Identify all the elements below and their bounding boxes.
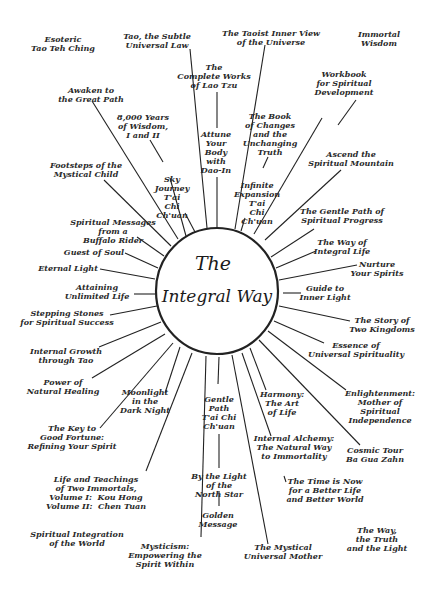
label-mystical-mother: The Mystical Universal Mother xyxy=(244,543,322,561)
label-by-light: By the Light of the North Star xyxy=(191,472,246,499)
integral-way-diagram: The Integral Way Esoteric Tao Teh ChingT… xyxy=(0,0,432,594)
label-internal-growth: Internal Growth through Tao xyxy=(30,347,102,365)
label-workbook: Workbook for Spiritual Development xyxy=(315,70,374,97)
label-sky-journey: Sky Journey T'ai Chi Ch'uan xyxy=(155,175,190,220)
label-esoteric: Esoteric Tao Teh Ching xyxy=(31,35,95,53)
label-infinite-expansion: Infinite Expansion T'ai Chi Ch'uan xyxy=(234,181,280,226)
label-quest-soul: Guest of Soul xyxy=(64,248,124,257)
label-stepping-stones: Stepping Stones for Spiritual Success xyxy=(20,309,113,327)
spoke-eternal-light xyxy=(100,269,155,279)
label-gentle-path-tai-chi: Gentle Path T'ai Chi Ch'uan xyxy=(202,395,237,431)
label-guide-inner: Guide to Inner Light xyxy=(299,284,350,302)
label-ascend: Ascend the Spiritual Mountain xyxy=(308,150,394,168)
label-time-is-now: The Time is Now for a Better Life and Be… xyxy=(286,477,363,504)
label-mysticism: Mysticism: Empowering the Spirit Within xyxy=(128,542,202,569)
label-8000-years: 8,000 Years of Wisdom, I and II xyxy=(117,113,169,140)
label-golden-message: Golden Message xyxy=(199,511,238,529)
label-tao-subtle: Tao, the Subtle Universal Law xyxy=(123,32,191,50)
label-book-changes: The Book of Changes and the Unchanging T… xyxy=(243,112,298,157)
spoke-way-integral xyxy=(276,251,316,268)
label-moonlight: Moonlight in the Dark Night xyxy=(120,388,170,415)
hub-title-the: The xyxy=(195,252,231,274)
label-key-fortune: The Key to Good Fortune: Refining Your S… xyxy=(27,424,116,451)
label-nurture: Nurture Your Spirits xyxy=(350,260,403,278)
label-taoist-inner-view: The Taoist Inner View of the Universe xyxy=(222,29,320,47)
label-enlightenment: Enlightenment: Mother of Spiritual Indep… xyxy=(345,389,415,425)
hub-title-integral-way: Integral Way xyxy=(162,286,272,306)
label-footsteps: Footsteps of the Mystical Child xyxy=(50,161,122,179)
spoke-story-kingdoms xyxy=(279,306,350,321)
spoke-key-fortune xyxy=(100,343,173,428)
label-harmony: Harmony: The Art of Life xyxy=(260,390,304,417)
spoke-8000-years xyxy=(150,140,163,162)
label-gentle-path-progress: The Gentle Path of Spiritual Progress xyxy=(300,207,384,225)
spoke-natural-healing xyxy=(92,334,165,378)
label-essence: Essence of Universal Spirituality xyxy=(308,341,404,359)
label-the-way-truth: The Way, the Truth and the Light xyxy=(347,526,408,553)
label-way-integral: The Way of Integral Life xyxy=(314,238,370,256)
spoke-book-changes xyxy=(263,157,268,168)
label-buffalo-rider: Spiritual Messages from a Buffalo Rider xyxy=(70,218,156,245)
label-cosmic-tour: Cosmic Tour Ba Gua Zahn xyxy=(346,446,404,464)
label-story-kingdoms: The Story of Two Kingdoms xyxy=(349,316,414,334)
label-eternal-light: Eternal Light xyxy=(38,264,98,273)
label-natural-healing: Power of Natural Healing xyxy=(27,378,100,396)
label-unlimited-life: Attaining Unlimited Life xyxy=(65,283,130,301)
label-complete-works: The Complete Works of Lao Tzu xyxy=(177,63,250,90)
label-spiritual-integration: Spiritual Integration of the World xyxy=(30,530,123,548)
label-attune: Attune Your Body with Dao-In xyxy=(201,130,231,175)
label-immortal-wisdom: Immortal Wisdom xyxy=(358,30,400,48)
label-awaken: Awaken to the Great Path xyxy=(58,86,124,104)
label-internal-alchemy: Internal Alchemy: The Natural Way to Imm… xyxy=(254,434,334,461)
label-life-teachings: Life and Teachings of Two Immortals, Vol… xyxy=(46,475,146,511)
spoke-gentle-path-progress xyxy=(271,229,314,257)
spoke-essence xyxy=(274,321,324,343)
spoke-nurture xyxy=(279,265,357,280)
spoke-gentle-path-tai-chi xyxy=(218,357,219,384)
spoke-stepping-stones xyxy=(110,306,157,315)
spoke-quest-soul xyxy=(125,253,158,268)
spoke-workbook xyxy=(338,100,356,125)
